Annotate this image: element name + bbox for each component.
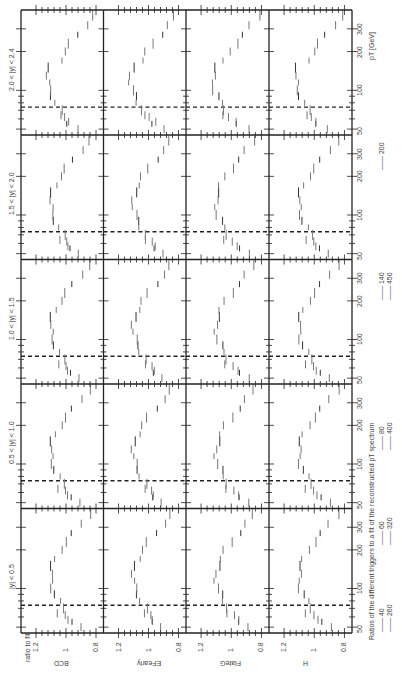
- x-tick-label: 300: [356, 23, 363, 35]
- panel: [186, 260, 269, 382]
- group-label-h: H: [303, 660, 308, 667]
- legend-entry: —— 200: [378, 142, 385, 170]
- legend-title: Ratios of the different triggers to a fi…: [368, 423, 375, 640]
- y-tick-label: 0.8: [92, 642, 99, 652]
- x-tick-label: 100: [356, 583, 363, 595]
- y-tick-label: 1.2: [32, 642, 39, 652]
- legend-entry: —— 140: [378, 272, 385, 300]
- rapidity-bin-label: 1.0 < |y| < 1.5: [8, 297, 15, 340]
- panel: [104, 136, 187, 258]
- rapidity-bin-label: 2.0 < |y| < 2.4: [8, 48, 15, 91]
- panel: [186, 11, 269, 134]
- group-label-flateg: FlateG: [220, 660, 241, 667]
- x-tick-label: 50: [356, 501, 363, 509]
- panel: [269, 136, 352, 258]
- x-tick-label: 300: [356, 397, 363, 409]
- rapidity-bin-label: 1.5 < |y| < 2.0: [8, 173, 15, 216]
- x-tick-label: 50: [356, 127, 363, 135]
- x-tick-label: 200: [356, 544, 363, 556]
- legend-entry: —— 400: [386, 422, 393, 450]
- panel-grid: [0, 0, 402, 675]
- y-tick-label: 1.2: [115, 642, 122, 652]
- panel: [21, 11, 104, 134]
- rapidity-bin-label: 0.5 < |y| < 1.0: [8, 422, 15, 465]
- panel: [269, 11, 352, 134]
- y-tick-label: 1: [227, 648, 234, 652]
- group-label-bcd: BCD: [54, 660, 69, 667]
- panel: [21, 260, 104, 382]
- panel: [21, 509, 104, 631]
- rotated-trigger-ratio-figure: 1.210.8BCD1.210.8EFearly1.210.8FlateG1.2…: [0, 0, 402, 675]
- x-tick-label: 50: [356, 252, 363, 260]
- x-tick-label: 200: [356, 171, 363, 183]
- rapidity-bin-label: |y| < 0.5: [8, 564, 15, 589]
- legend-entry: —— 80: [378, 426, 385, 450]
- x-tick-label: 50: [356, 376, 363, 384]
- panel: [269, 509, 352, 631]
- x-axis-label: pT [GeV]: [368, 32, 375, 60]
- panel: [21, 385, 104, 507]
- legend-entry: —— 40: [378, 608, 385, 632]
- x-tick-label: 300: [356, 273, 363, 285]
- panel: [104, 11, 187, 134]
- panel: [104, 260, 187, 382]
- y-tick-label: 1.2: [280, 642, 287, 652]
- y-tick-label: 1: [310, 648, 317, 652]
- group-label-efearly: EFearly: [137, 660, 161, 667]
- y-tick-label: 1.2: [197, 642, 204, 652]
- x-tick-label: 100: [356, 334, 363, 346]
- x-tick-label: 100: [356, 458, 363, 470]
- legend-entry: —— 60: [378, 521, 385, 545]
- panel: [104, 509, 187, 631]
- y-tick-label: 1: [145, 648, 152, 652]
- y-tick-label: 1: [62, 648, 69, 652]
- legend-entry: —— 450: [386, 272, 393, 300]
- panel: [104, 385, 187, 507]
- x-tick-label: 200: [356, 420, 363, 432]
- y-tick-label: 0.8: [175, 642, 182, 652]
- panel: [269, 260, 352, 382]
- y-tick-label: 0.8: [340, 642, 347, 652]
- panel: [186, 385, 269, 507]
- panel: [186, 509, 269, 631]
- panel: [269, 385, 352, 507]
- x-tick-label: 300: [356, 522, 363, 534]
- legend-entry: —— 260: [386, 604, 393, 632]
- y-axis-label: ratio to fit: [24, 633, 31, 662]
- x-tick-label: 100: [356, 209, 363, 221]
- x-tick-label: 200: [356, 46, 363, 58]
- x-tick-label: 50: [356, 625, 363, 633]
- panel: [186, 136, 269, 258]
- y-tick-label: 0.8: [257, 642, 264, 652]
- x-tick-label: 300: [356, 148, 363, 160]
- legend-entry: —— 320: [386, 517, 393, 545]
- x-tick-label: 200: [356, 295, 363, 307]
- x-tick-label: 100: [356, 85, 363, 97]
- panel: [21, 136, 104, 258]
